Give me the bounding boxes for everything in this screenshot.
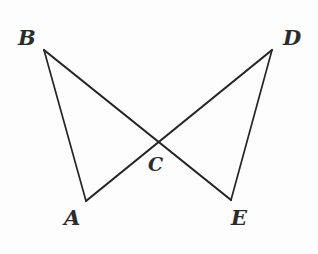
segment-de [231,50,272,200]
vertex-label-e: E [231,207,247,228]
geometry-figure [0,0,318,254]
diagram-canvas: BDAEC [0,0,318,254]
vertex-label-c: C [148,155,163,174]
vertex-label-d: D [283,27,301,48]
segment-da [86,50,272,201]
vertex-label-b: B [18,27,36,48]
vertex-label-a: A [64,207,80,228]
segment-ba [44,50,86,201]
segment-be [44,50,231,200]
segment-layer [44,50,272,201]
